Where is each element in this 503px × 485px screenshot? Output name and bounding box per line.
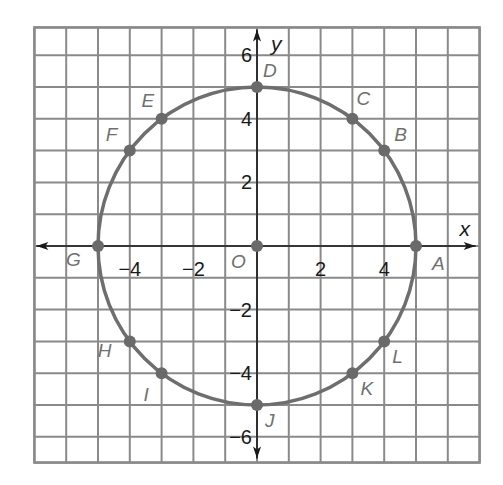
point-label-f: F — [106, 124, 119, 145]
point-c — [346, 113, 358, 125]
coordinate-plane: ABCDEFGHIJKLO−4−224642−2−4−6xy — [0, 0, 503, 485]
point-label-a: A — [431, 253, 445, 274]
x-tick-label: 2 — [315, 258, 326, 280]
x-axis-label: x — [459, 217, 472, 240]
y-tick-label: −2 — [229, 299, 252, 321]
point-o — [251, 240, 263, 252]
point-h — [124, 335, 136, 347]
point-label-o: O — [231, 251, 246, 272]
point-a — [410, 240, 422, 252]
y-tick-label: −4 — [229, 362, 252, 384]
x-tick-label: −4 — [118, 258, 141, 280]
x-tick-label: 4 — [379, 258, 390, 280]
point-label-j: J — [264, 410, 275, 431]
point-e — [156, 113, 168, 125]
y-tick-label: 2 — [241, 171, 252, 193]
y-tick-label: −6 — [229, 426, 252, 448]
point-label-h: H — [98, 340, 112, 361]
point-b — [378, 145, 390, 157]
point-label-k: K — [360, 378, 374, 399]
labels: ABCDEFGHIJKLO−4−224642−2−4−6xy — [66, 32, 472, 447]
point-label-i: I — [144, 384, 150, 405]
point-label-c: C — [356, 88, 370, 109]
y-tick-label: 4 — [241, 108, 252, 130]
point-label-g: G — [66, 249, 81, 270]
y-tick-label: 6 — [241, 44, 252, 66]
point-f — [124, 145, 136, 157]
point-label-l: L — [392, 346, 403, 367]
point-l — [378, 335, 390, 347]
point-k — [346, 367, 358, 379]
point-g — [92, 240, 104, 252]
point-d — [251, 81, 263, 93]
point-i — [156, 367, 168, 379]
point-j — [251, 399, 263, 411]
point-label-d: D — [263, 60, 277, 81]
point-label-b: B — [394, 124, 407, 145]
x-tick-label: −2 — [182, 258, 205, 280]
point-label-e: E — [142, 90, 155, 111]
y-axis-label: y — [269, 32, 283, 55]
